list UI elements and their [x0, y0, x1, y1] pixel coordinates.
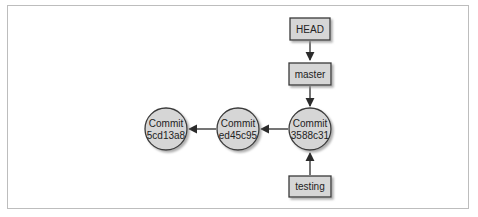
ref-label-head: HEAD — [296, 24, 324, 35]
ref-head: HEAD — [290, 18, 330, 40]
commit-hash: ed45c95 — [219, 130, 258, 141]
commit-circle — [145, 108, 187, 150]
commit-circle — [217, 108, 259, 150]
commit-node-5cd13a8: Commit 5cd13a8 — [145, 108, 187, 150]
commit-hash: 5cd13a8 — [147, 130, 186, 141]
commit-node-3588c31: Commit 3588c31 — [289, 108, 331, 150]
commit-title: Commit — [293, 118, 328, 129]
ref-label-master: master — [295, 69, 326, 80]
commit-hash: 3588c31 — [291, 130, 330, 141]
ref-master: master — [289, 63, 331, 85]
git-graph: HEAD master testing Commit 5cd13a8 Commi… — [0, 0, 478, 217]
commit-title: Commit — [149, 118, 184, 129]
commit-circle — [289, 108, 331, 150]
edges — [189, 41, 310, 175]
commit-title: Commit — [221, 118, 256, 129]
commit-node-ed45c95: Commit ed45c95 — [217, 108, 259, 150]
ref-label-testing: testing — [295, 181, 324, 192]
ref-testing: testing — [289, 176, 331, 197]
